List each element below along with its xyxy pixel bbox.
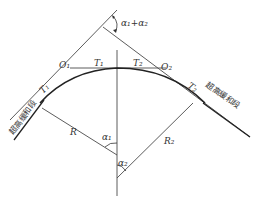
alpha1-label: α₁ — [102, 132, 112, 142]
r-label: R — [69, 127, 77, 137]
r2-label: R₂ — [163, 136, 175, 146]
t2-right-label: T₂ — [186, 80, 200, 94]
t2-mid-label: T₂ — [133, 58, 143, 68]
o1-label: O₁ — [59, 60, 70, 70]
apex-angle-label: α₁+α₂ — [121, 18, 148, 28]
alpha2-label: α₂ — [118, 158, 128, 168]
transition-left-label: 超高缓和段 — [7, 98, 39, 136]
alpha1-arc — [105, 143, 117, 147]
o2-label: O₂ — [161, 62, 172, 72]
right-transition-segment — [203, 103, 250, 137]
t1-mid-label: T₁ — [94, 58, 104, 68]
radius-r2-line — [117, 103, 193, 178]
compound-curve — [40, 68, 205, 103]
apex-arrow-bottom — [113, 29, 117, 33]
compound-curve-diagram: α₁+α₂ O₁ T₁ T₂ O₂ T₁ T₂ R R₂ α₁ α₂ 超高缓和段… — [0, 0, 255, 206]
transition-right-label: 超高缓和段 — [204, 79, 243, 110]
